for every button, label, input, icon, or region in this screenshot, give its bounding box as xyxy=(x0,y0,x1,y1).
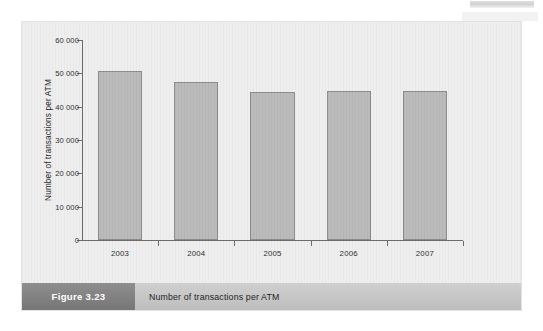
y-axis-tick-label: 50 000 xyxy=(55,69,79,78)
scan-artifact-strip xyxy=(470,1,534,8)
x-axis-line xyxy=(82,240,463,241)
y-axis-title: Number of transactions per ATM xyxy=(44,79,53,201)
bar xyxy=(98,71,142,240)
bar xyxy=(174,82,218,240)
figure-number-block: Figure 3.23 xyxy=(22,283,135,310)
y-axis-tick-label: 20 000 xyxy=(55,169,79,178)
figure-caption-text: Number of transactions per ATM xyxy=(149,292,279,302)
x-axis-tick-label: 2005 xyxy=(263,249,281,258)
bar-chart-plot-area: Number of transactions per ATM 010 00020… xyxy=(82,40,477,260)
y-axis-tick-label: 40 000 xyxy=(55,102,79,111)
y-axis-line xyxy=(82,40,83,241)
figure-caption-bar: Figure 3.23 Number of transactions per A… xyxy=(22,283,521,310)
bar xyxy=(250,92,294,240)
x-axis-tick-label: 2003 xyxy=(111,249,129,258)
bar xyxy=(327,91,371,240)
x-axis-tick xyxy=(234,241,235,246)
y-axis-tick-label: 30 000 xyxy=(55,136,79,145)
x-axis-tick xyxy=(387,241,388,246)
y-axis-tick-label: 10 000 xyxy=(55,202,79,211)
figure-number-label: Figure 3.23 xyxy=(52,291,106,302)
y-axis-tick-label: 0 xyxy=(75,236,79,245)
x-axis-tick-label: 2004 xyxy=(187,249,205,258)
x-axis-tick xyxy=(311,241,312,246)
x-axis-tick-label: 2007 xyxy=(416,249,434,258)
scan-artifact-strip-secondary xyxy=(462,12,538,21)
x-axis-tick-label: 2006 xyxy=(340,249,358,258)
figure-panel: Number of transactions per ATM 010 00020… xyxy=(22,22,521,310)
bar xyxy=(403,91,447,240)
y-axis-tick-label: 60 000 xyxy=(55,36,79,45)
caption-text-block: Number of transactions per ATM xyxy=(135,283,521,310)
x-axis-tick xyxy=(158,241,159,246)
x-axis-tick xyxy=(463,241,464,246)
